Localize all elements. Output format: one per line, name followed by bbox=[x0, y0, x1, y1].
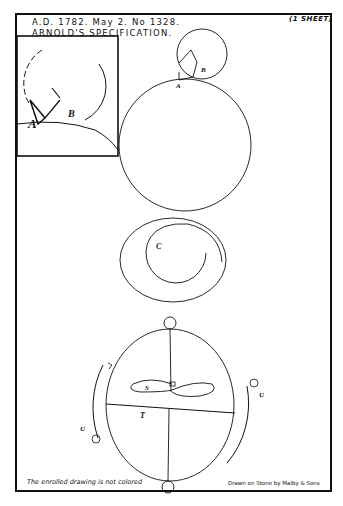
lithographer-credit: Drawn on Stone by Malby & Sons bbox=[228, 480, 320, 486]
svg-text:U: U bbox=[80, 425, 86, 433]
svg-text:B: B bbox=[200, 66, 206, 74]
svg-text:C: C bbox=[156, 242, 162, 251]
svg-text:T: T bbox=[140, 411, 146, 420]
svg-text:U: U bbox=[259, 391, 265, 399]
spiral-spring-figure: C bbox=[120, 218, 226, 302]
balance-wheel-figure: S T U U bbox=[80, 317, 265, 493]
patent-sheet: A.D. 1782. May 2. No 1328. ARNOLD'S SPEC… bbox=[0, 0, 343, 506]
svg-text:A: A bbox=[175, 82, 181, 90]
inset-detail-figure: A B bbox=[17, 36, 118, 156]
escapement-figure: A B bbox=[119, 29, 251, 211]
technical-drawing: A B A B C bbox=[0, 0, 343, 506]
svg-text:S: S bbox=[145, 384, 149, 392]
enrolled-drawing-note: The enrolled drawing is not colored bbox=[27, 478, 142, 486]
svg-text:A: A bbox=[27, 116, 37, 131]
svg-text:B: B bbox=[67, 108, 75, 119]
